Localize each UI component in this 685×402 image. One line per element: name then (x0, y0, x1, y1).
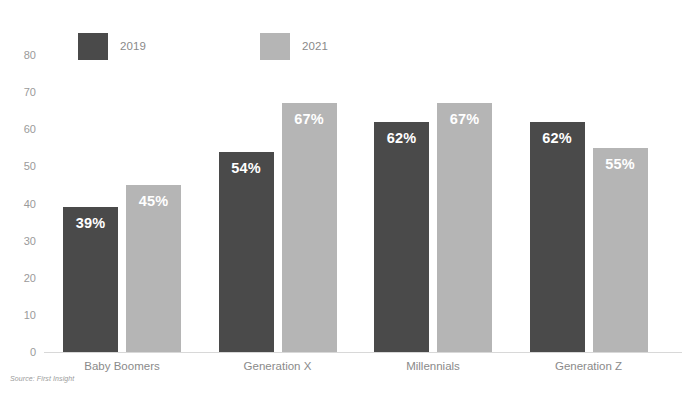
source-note: Source: First Insight (10, 375, 74, 382)
bar-group: 62%55% (530, 55, 648, 352)
y-axis-tick-label: 10 (24, 309, 36, 321)
bar-2019-generation-z[interactable]: 62% (530, 122, 585, 352)
bar-value-label: 55% (593, 156, 648, 172)
bar-series-container: 39%45%54%67%62%67%62%55% (44, 55, 682, 352)
x-axis-category-label: Baby Boomers (84, 360, 159, 372)
x-axis-category-label: Generation X (244, 360, 312, 372)
bar-group: 54%67% (219, 55, 337, 352)
legend-label-2021: 2021 (302, 40, 328, 52)
bar-2021-generation-x[interactable]: 67% (282, 103, 337, 352)
bar-value-label: 45% (126, 193, 181, 209)
y-axis-tick-label: 50 (24, 160, 36, 172)
bar-2019-baby-boomers[interactable]: 39% (63, 207, 118, 352)
legend-label-2019: 2019 (120, 40, 146, 52)
bar-2021-millennials[interactable]: 67% (437, 103, 492, 352)
bar-value-label: 62% (374, 130, 429, 146)
y-axis-tick-label: 40 (24, 198, 36, 210)
y-axis-tick-label: 20 (24, 272, 36, 284)
y-axis-tick-label: 70 (24, 86, 36, 98)
bar-value-label: 67% (282, 111, 337, 127)
bar-value-label: 39% (63, 215, 118, 231)
bar-value-label: 54% (219, 160, 274, 176)
x-axis-category-label: Millennials (406, 360, 460, 372)
y-axis-tick-label: 30 (24, 235, 36, 247)
x-axis-category-labels: Baby BoomersGeneration XMillennialsGener… (44, 360, 682, 380)
bar-group: 39%45% (63, 55, 181, 352)
bar-value-label: 67% (437, 111, 492, 127)
x-axis-line (44, 352, 682, 353)
bar-group: 62%67% (374, 55, 492, 352)
bar-2021-baby-boomers[interactable]: 45% (126, 185, 181, 352)
y-axis-tick-label: 60 (24, 123, 36, 135)
chart-plot-area: 01020304050607080 39%45%54%67%62%67%62%5… (44, 55, 682, 353)
bar-value-label: 62% (530, 130, 585, 146)
y-axis-tick-label: 80 (24, 49, 36, 61)
x-axis-category-label: Generation Z (555, 360, 622, 372)
bar-2021-generation-z[interactable]: 55% (593, 148, 648, 352)
y-axis-tick-label: 0 (30, 346, 36, 358)
bar-2019-generation-x[interactable]: 54% (219, 152, 274, 352)
bar-2019-millennials[interactable]: 62% (374, 122, 429, 352)
